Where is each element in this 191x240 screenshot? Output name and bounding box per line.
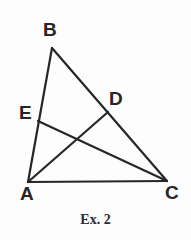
vertex-label-d: D: [109, 89, 123, 108]
vertex-label-e: E: [19, 103, 32, 122]
segment-ac: [28, 181, 167, 182]
segment-bc: [52, 48, 167, 181]
segment-ec: [38, 121, 167, 181]
vertex-label-a: A: [20, 184, 34, 203]
vertex-label-c: C: [165, 183, 179, 202]
figure-caption: Ex. 2: [0, 212, 191, 228]
geometry-figure: B E D A C Ex. 2: [0, 0, 191, 240]
vertex-label-b: B: [43, 20, 57, 39]
